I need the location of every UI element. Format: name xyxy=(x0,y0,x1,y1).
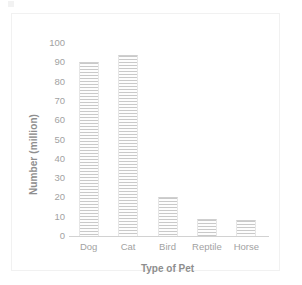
x-axis-title: Type of Pet xyxy=(69,263,266,274)
scan-artifact xyxy=(8,1,14,7)
x-axis-tick-label: Bird xyxy=(159,242,176,252)
y-axis-tick-label: 80 xyxy=(54,77,65,87)
y-axis-tick-label: 60 xyxy=(54,115,65,125)
y-axis-tick-label: 40 xyxy=(54,154,65,164)
x-axis-line xyxy=(69,236,269,237)
chart-frame: Number (million) 0102030405060708090100 … xyxy=(11,13,280,271)
bar-reptile xyxy=(197,219,217,236)
y-axis-tick-label: 10 xyxy=(54,212,65,222)
bar-bird xyxy=(158,197,178,236)
bar-dog xyxy=(79,62,99,236)
y-axis-tick-labels: 0102030405060708090100 xyxy=(40,43,65,236)
y-axis-tick-label: 90 xyxy=(54,58,65,68)
x-axis-tick-label: Horse xyxy=(234,242,259,252)
y-axis-tick-label: 30 xyxy=(54,173,65,183)
bar-horse xyxy=(236,220,256,236)
x-axis-tick-label: Cat xyxy=(121,242,136,252)
x-axis-tick-label: Reptile xyxy=(192,242,222,252)
y-axis-tick-label: 70 xyxy=(54,96,65,106)
x-axis-tick-labels: DogCatBirdReptileHorse xyxy=(69,242,266,258)
y-axis-title-label: Number (million) xyxy=(29,113,40,194)
y-axis-tick-label: 0 xyxy=(60,231,65,241)
y-axis-tick-label: 50 xyxy=(54,135,65,145)
bar-cat xyxy=(118,55,138,236)
x-axis-tick-label: Dog xyxy=(80,242,97,252)
y-axis-tick-label: 100 xyxy=(49,38,65,48)
y-axis-tick-label: 20 xyxy=(54,193,65,203)
plot-area xyxy=(69,43,266,236)
